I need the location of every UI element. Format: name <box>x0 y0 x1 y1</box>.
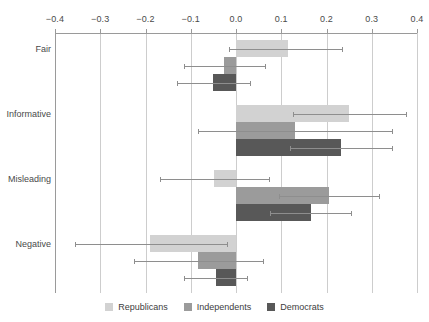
error-bar <box>177 83 249 84</box>
gridline <box>281 33 282 293</box>
error-bar-cap <box>75 242 76 247</box>
y-axis-tick-label: Negative <box>15 239 51 249</box>
x-axis-tick-label: 0.3 <box>365 14 378 24</box>
error-bar-cap <box>392 129 393 134</box>
x-axis-tick-label: −0.1 <box>181 14 200 24</box>
error-bar <box>270 213 351 214</box>
error-bar-cap <box>379 194 380 199</box>
error-bar <box>290 148 391 149</box>
error-bar <box>198 131 393 132</box>
error-bar-cap <box>269 177 270 182</box>
legend-label: Democrats <box>280 302 324 312</box>
gridline <box>327 33 328 293</box>
error-bar-cap <box>265 64 266 69</box>
error-bar-cap <box>229 47 230 52</box>
x-axis-tick-label: −0.4 <box>46 14 65 24</box>
x-axis-tick-label: 0.0 <box>229 14 242 24</box>
legend-swatch-icon <box>184 303 192 311</box>
axis-spine-left <box>55 33 56 293</box>
error-bar-cap <box>351 211 352 216</box>
x-axis-tickmark <box>55 29 56 33</box>
error-bar-cap <box>160 177 161 182</box>
chart-legend: RepublicansIndependentsDemocrats <box>0 302 429 312</box>
x-axis-tickmark <box>100 29 101 33</box>
error-bar-cap <box>227 242 228 247</box>
plot-area <box>55 33 417 293</box>
legend-entry: Republicans <box>105 302 168 312</box>
error-bar-cap <box>263 259 264 264</box>
legend-entry: Democrats <box>267 302 324 312</box>
error-bar-cap <box>184 64 185 69</box>
x-axis-tickmark <box>417 29 418 33</box>
error-bar <box>184 278 247 279</box>
error-bar <box>293 114 406 115</box>
error-bar-cap <box>392 146 393 151</box>
error-bar <box>184 66 265 67</box>
x-axis-tickmark <box>191 29 192 33</box>
error-bar <box>279 196 379 197</box>
error-bar-cap <box>198 129 199 134</box>
axis-spine-top <box>55 33 417 34</box>
y-axis-tick-label: Misleading <box>8 174 51 184</box>
x-axis-tickmark <box>236 29 237 33</box>
gridline <box>236 33 237 293</box>
error-bar <box>134 261 263 262</box>
x-axis-tickmark <box>327 29 328 33</box>
legend-label: Independents <box>197 302 252 312</box>
chart-figure: −0.4−0.3−0.2−0.10.00.10.20.30.4 FairInfo… <box>0 0 429 322</box>
error-bar-cap <box>293 112 294 117</box>
error-bar-cap <box>134 259 135 264</box>
x-axis-tick-label: 0.4 <box>410 14 423 24</box>
error-bar-cap <box>184 276 185 281</box>
x-axis-tick-label: 0.2 <box>320 14 333 24</box>
error-bar-cap <box>290 146 291 151</box>
legend-swatch-icon <box>267 303 275 311</box>
gridline <box>372 33 373 293</box>
gridline <box>146 33 147 293</box>
x-axis-tick-label: −0.2 <box>136 14 155 24</box>
y-axis-tick-label: Fair <box>36 44 52 54</box>
legend-label: Republicans <box>118 302 168 312</box>
error-bar-cap <box>177 81 178 86</box>
legend-entry: Independents <box>184 302 252 312</box>
error-bar-cap <box>250 81 251 86</box>
gridline <box>417 33 418 293</box>
legend-swatch-icon <box>105 303 113 311</box>
error-bar <box>75 244 227 245</box>
error-bar-cap <box>279 194 280 199</box>
error-bar <box>160 179 269 180</box>
x-axis-tick-label: 0.1 <box>275 14 288 24</box>
x-axis-tickmark <box>372 29 373 33</box>
x-axis-tickmark <box>146 29 147 33</box>
error-bar-cap <box>342 47 343 52</box>
error-bar-cap <box>270 211 271 216</box>
x-axis-tickmark <box>281 29 282 33</box>
gridline <box>191 33 192 293</box>
error-bar <box>229 49 342 50</box>
error-bar-cap <box>406 112 407 117</box>
y-axis-tick-label: Informative <box>6 109 51 119</box>
x-axis-tick-label: −0.3 <box>91 14 110 24</box>
gridline <box>100 33 101 293</box>
error-bar-cap <box>247 276 248 281</box>
